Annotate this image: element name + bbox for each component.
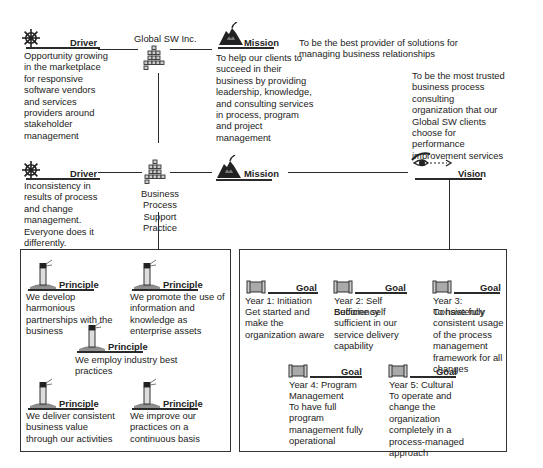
connector <box>288 172 408 173</box>
mountain-flag-icon <box>216 155 242 179</box>
lighthouse-icon <box>77 321 107 351</box>
mission-text-top: To help our clients to succeed in their … <box>216 52 316 143</box>
connector <box>170 172 212 173</box>
connector-vertical <box>449 179 450 250</box>
lighthouse-icon <box>132 378 162 408</box>
goal-text: Get started and make the organization aw… <box>245 306 335 340</box>
org-chart-icon <box>143 159 167 185</box>
connector-vertical <box>158 73 159 143</box>
goal-text: To operate and change the organization c… <box>389 390 469 458</box>
goal-label: Goal <box>296 282 317 293</box>
goal-label: Goal <box>341 366 362 377</box>
driver-label-mid: Driver <box>70 168 97 179</box>
goal-title: Year 5: Cultural <box>389 379 479 390</box>
principle-label: Principle <box>59 279 99 290</box>
principle-label: Principle <box>59 398 99 409</box>
goal-text: Become self sufficient in our service de… <box>334 306 424 352</box>
goal-title: Year 4: Program Management <box>289 379 369 402</box>
driver-text-top: Opportunity growing in the marketplace f… <box>24 50 110 141</box>
goal-text: To have full program management fully op… <box>289 401 369 447</box>
principle-label: Principle <box>163 398 203 409</box>
scroll-icon <box>388 364 412 378</box>
connector <box>98 172 142 173</box>
org-label-mid: Business Process Support Practice <box>130 188 190 234</box>
goal-title: Year 1: Initiation <box>245 295 335 306</box>
principle-text: We improve our practices on a continuous… <box>130 410 226 444</box>
mission-label-top: Mission <box>244 37 279 48</box>
eye-icon <box>410 151 454 171</box>
vision-text-mid: To be the most trusted business process … <box>412 70 507 161</box>
driver-text-mid: Inconsistency in results of process and … <box>24 180 110 248</box>
principle-label: Principle <box>163 279 203 290</box>
connector <box>98 49 138 50</box>
principle-text: We promote the use of information and kn… <box>130 291 230 337</box>
goal-label: Goal <box>480 282 501 293</box>
mission-underline <box>216 179 272 181</box>
mission-label-mid: Mission <box>244 168 279 179</box>
lighthouse-icon <box>28 378 58 408</box>
lighthouse-icon <box>28 259 58 289</box>
principle-text: We deliver consistent business value thr… <box>26 410 122 444</box>
connector-vertical <box>158 212 159 250</box>
scroll-icon <box>432 280 456 294</box>
vision-label: Vision <box>458 168 486 179</box>
mountain-flag-icon <box>218 22 244 46</box>
ship-wheel-icon <box>21 28 41 48</box>
connector <box>170 49 212 50</box>
goal-text: To have fully consistent usage of the pr… <box>433 306 505 374</box>
ship-wheel-icon <box>21 160 41 180</box>
org-chart-icon <box>142 45 166 71</box>
scroll-icon <box>246 280 270 294</box>
lighthouse-icon <box>132 259 162 289</box>
scroll-icon <box>333 280 357 294</box>
principle-label: Principle <box>108 341 148 352</box>
goal-label: Goal <box>385 282 406 293</box>
scroll-icon <box>288 364 312 378</box>
goal-label: Goal <box>436 366 457 377</box>
principle-text: We employ industry best practices <box>75 354 215 377</box>
driver-label-top: Driver <box>70 37 97 48</box>
vision-text-top: To be the best provider of solutions for… <box>299 37 479 60</box>
org-label-top: Global SW Inc. <box>134 33 197 44</box>
principle-text: We develop harmonious partnerships with … <box>26 291 122 337</box>
